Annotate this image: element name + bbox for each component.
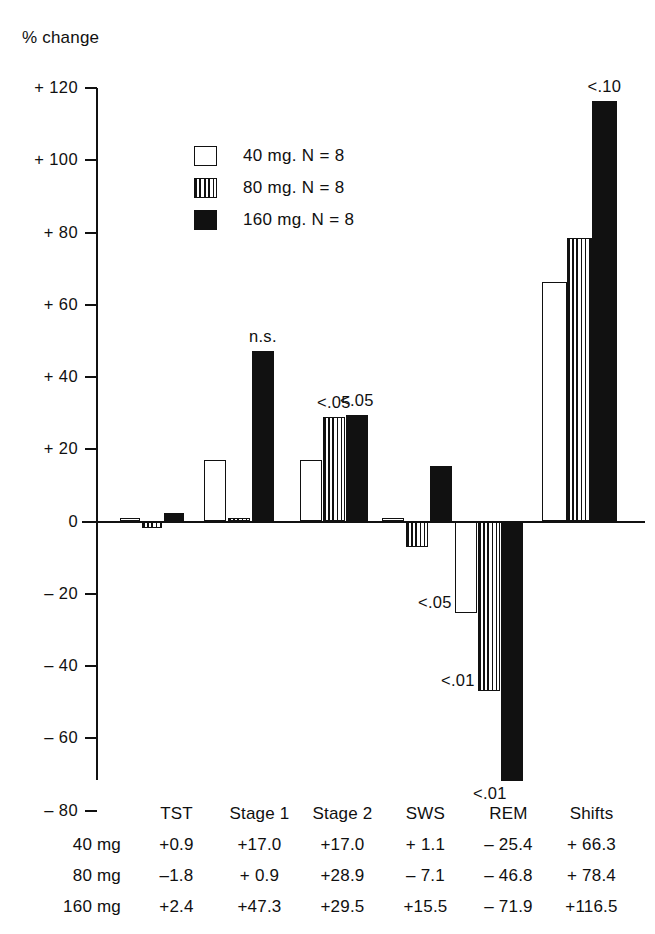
legend-swatch-striped-icon	[194, 178, 217, 198]
y-axis-tick-label: + 120	[0, 78, 78, 97]
table-column-header: TST	[135, 804, 218, 824]
y-axis-tick-label: + 60	[0, 295, 78, 314]
table-cell: +15.5	[384, 897, 467, 917]
bar	[478, 522, 500, 691]
bar	[592, 101, 617, 522]
table-row: 40 mg+0.9+17.0+17.0+ 1.1– 25.4+ 66.3	[0, 829, 655, 860]
table-column-header: Shifts	[550, 804, 633, 824]
y-axis-tick-label: + 20	[0, 439, 78, 458]
table-cell: +17.0	[218, 835, 301, 855]
table-row-header: 80 mg	[0, 866, 135, 886]
bar	[228, 518, 250, 521]
table-cell: +0.9	[135, 835, 218, 855]
table-column-header: REM	[467, 804, 550, 824]
bar	[346, 415, 368, 522]
bar	[204, 460, 226, 521]
bar-chart-plot: + 120+ 100+ 80+ 60+ 40+ 200– 20– 40– 60–…	[0, 0, 655, 800]
significance-label: <.01	[441, 671, 475, 690]
y-axis-tick-mark	[85, 304, 97, 306]
table-cell: + 78.4	[550, 866, 633, 886]
table-column-header: Stage 1	[218, 804, 301, 824]
y-axis-tick-mark	[85, 376, 97, 378]
legend-swatch-open-icon	[194, 146, 217, 166]
table-cell: +17.0	[301, 835, 384, 855]
table-cell: +28.9	[301, 866, 384, 886]
table-cell: + 0.9	[218, 866, 301, 886]
legend-item: 80 mg. N = 8	[194, 175, 354, 201]
table-header-row: TSTStage 1Stage 2SWSREMShifts	[0, 798, 655, 829]
bar	[406, 522, 428, 548]
table-cell: –1.8	[135, 866, 218, 886]
table-row-header: 40 mg	[0, 835, 135, 855]
y-axis-tick-label: 0	[0, 512, 78, 531]
bar	[542, 282, 567, 522]
y-axis-tick-label: – 60	[0, 728, 78, 747]
table-cell: +2.4	[135, 897, 218, 917]
y-axis-tick-label: + 40	[0, 367, 78, 386]
table-cell: +116.5	[550, 897, 633, 917]
legend-item: 40 mg. N = 8	[194, 143, 354, 169]
y-axis-tick-mark	[85, 448, 97, 450]
y-axis-tick-mark	[85, 665, 97, 667]
table-cell: – 46.8	[467, 866, 550, 886]
table-cell: – 25.4	[467, 835, 550, 855]
bar	[252, 351, 274, 522]
legend-item-label: 40 mg. N = 8	[243, 146, 344, 166]
y-axis-line	[96, 88, 98, 780]
bar	[567, 238, 592, 521]
table-column-header: SWS	[384, 804, 467, 824]
bar	[382, 518, 404, 522]
legend-swatch-solid-icon	[194, 210, 217, 230]
y-axis-tick-label: – 20	[0, 584, 78, 603]
significance-label: <.10	[588, 77, 622, 96]
table-row: 80 mg–1.8+ 0.9+28.9– 7.1– 46.8+ 78.4	[0, 860, 655, 891]
table-cell: +47.3	[218, 897, 301, 917]
legend-item: 160 mg. N = 8	[194, 207, 354, 233]
bar	[142, 522, 162, 529]
table-cell: + 66.3	[550, 835, 633, 855]
bar	[323, 417, 345, 521]
bar	[164, 513, 184, 522]
significance-label: n.s.	[249, 327, 277, 346]
y-axis-tick-label: + 100	[0, 150, 78, 169]
chart-legend: 40 mg. N = 8 80 mg. N = 8 160 mg. N = 8	[194, 143, 354, 239]
bar	[430, 466, 452, 522]
table-cell: – 71.9	[467, 897, 550, 917]
y-axis-tick-mark	[85, 737, 97, 739]
legend-item-label: 80 mg. N = 8	[243, 178, 344, 198]
bar	[300, 460, 322, 521]
y-axis-tick-mark	[85, 593, 97, 595]
bar	[501, 522, 523, 782]
bar	[455, 522, 477, 614]
legend-item-label: 160 mg. N = 8	[243, 210, 354, 230]
y-axis-tick-label: + 80	[0, 223, 78, 242]
data-value-table: TSTStage 1Stage 2SWSREMShifts40 mg+0.9+1…	[0, 798, 655, 922]
table-row-header: 160 mg	[0, 897, 135, 917]
table-cell: +29.5	[301, 897, 384, 917]
table-cell: – 7.1	[384, 866, 467, 886]
y-axis-tick-mark	[85, 159, 97, 161]
y-axis-tick-mark	[82, 521, 100, 523]
significance-label: <.05	[418, 593, 452, 612]
y-axis-tick-label: – 40	[0, 656, 78, 675]
significance-label: <.05	[340, 391, 374, 410]
table-cell: + 1.1	[384, 835, 467, 855]
y-axis-tick-mark	[85, 232, 97, 234]
bar	[120, 518, 140, 521]
table-row: 160 mg+2.4+47.3+29.5+15.5– 71.9+116.5	[0, 891, 655, 922]
y-axis-tick-mark	[85, 87, 97, 89]
table-column-header: Stage 2	[301, 804, 384, 824]
